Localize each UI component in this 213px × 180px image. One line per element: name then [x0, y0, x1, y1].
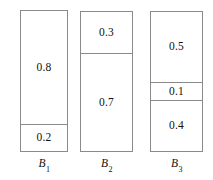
- bar-b2-segment-1: 0.3: [81, 12, 132, 53]
- bar-b1-caption-subscript: 1: [46, 165, 50, 174]
- bar-b3: 0.5 0.1 0.4: [150, 11, 203, 152]
- bar-b3-segment-2: 0.1: [151, 82, 202, 100]
- bar-b3-segment-1: 0.5: [151, 12, 202, 82]
- bar-b2-segment-1-value: 0.3: [99, 27, 114, 39]
- bar-b1-segment-2: 0.2: [21, 124, 67, 151]
- bar-b3-segment-3: 0.4: [151, 100, 202, 151]
- bar-b1-segment-1: 0.8: [21, 11, 67, 124]
- bar-b1-caption: B1: [20, 158, 68, 172]
- bar-b3-caption-base: B: [171, 157, 178, 169]
- bar-b1-caption-base: B: [38, 157, 45, 169]
- bar-b1-segment-1-value: 0.8: [37, 62, 52, 74]
- bar-b3-segment-2-value: 0.1: [169, 86, 184, 98]
- bar-b3-segment-3-value: 0.4: [169, 120, 184, 132]
- bar-b2-segment-2: 0.7: [81, 53, 132, 151]
- bar-b2-caption-subscript: 2: [109, 165, 113, 174]
- bar-b1: 0.8 0.2: [20, 10, 68, 152]
- bar-b3-caption-subscript: 3: [179, 165, 183, 174]
- bar-b3-caption: B3: [150, 158, 203, 172]
- bar-b1-segment-2-value: 0.2: [37, 132, 52, 144]
- stacked-bar-figure: 0.8 0.2 B1 0.3 0.7 B2 0.5 0.1 0.4 B3: [0, 0, 213, 180]
- bar-b3-segment-1-value: 0.5: [169, 41, 184, 53]
- bar-b2: 0.3 0.7: [80, 11, 133, 152]
- bar-b2-segment-2-value: 0.7: [99, 97, 114, 109]
- bar-b2-caption-base: B: [101, 157, 108, 169]
- bar-b2-caption: B2: [80, 158, 133, 172]
